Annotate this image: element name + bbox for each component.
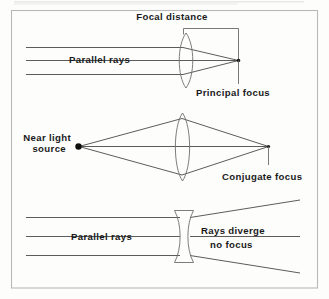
parallel-rays-label-panel3: Parallel rays xyxy=(71,231,132,242)
conjugate-focus-label: Conjugate focus xyxy=(222,171,302,182)
convex-lens-panel2 xyxy=(175,113,189,181)
parallel-rays-label-panel1: Parallel rays xyxy=(69,54,130,65)
conjugate-ray-upper xyxy=(182,119,269,147)
refracted-ray-bottom xyxy=(183,61,239,75)
rays-diverge-label-line1: Rays diverge xyxy=(201,225,265,236)
panel-concave-parallel: Parallel rays Rays diverge no focus xyxy=(26,200,300,273)
near-light-source-point xyxy=(75,143,81,149)
diverging-ray-bottom xyxy=(190,256,300,274)
near-light-source-label-line1: Near light xyxy=(23,132,71,143)
scan-artifact-top-secondary xyxy=(14,3,238,4)
source-ray-upper xyxy=(79,119,182,147)
near-light-source-label-line2: source xyxy=(32,143,66,154)
rays-diverge-label-line2: no focus xyxy=(210,239,253,250)
source-ray-lower xyxy=(79,147,182,176)
optics-diagram-canvas: Focal distance Parallel rays Principal f… xyxy=(0,0,329,299)
panel-convex-parallel: Focal distance Parallel rays Principal f… xyxy=(26,11,270,98)
diverging-ray-top xyxy=(190,200,300,218)
optics-figure: Focal distance Parallel rays Principal f… xyxy=(0,0,329,299)
scan-artifact-top xyxy=(14,1,304,3)
refracted-ray-top xyxy=(183,48,239,61)
focal-distance-label: Focal distance xyxy=(136,11,208,22)
principal-focus-label: Principal focus xyxy=(196,87,270,98)
panel-convex-near-source: Near light source Conjugate focus xyxy=(23,113,302,182)
